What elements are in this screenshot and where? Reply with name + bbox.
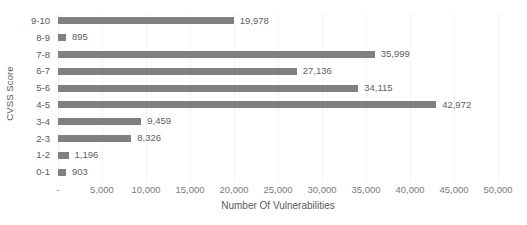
- x-axis-tick-45000: 45,000: [439, 183, 468, 197]
- bar: [58, 51, 375, 58]
- y-axis-tick-4-5: 4-5: [36, 97, 50, 113]
- y-axis-tick-1-2: 1-2: [36, 147, 50, 163]
- bar: [58, 85, 358, 92]
- bar-value-label: 19,978: [240, 13, 269, 29]
- bar-row: 35,999: [58, 47, 498, 63]
- x-axis-tick-15000: 15,000: [175, 183, 204, 197]
- bar-row: 34,115: [58, 80, 498, 96]
- y-axis-title: CVSS Score: [0, 0, 18, 186]
- bar-series: 19,97889535,99927,13634,11542,9729,4598,…: [58, 13, 498, 181]
- bar: [58, 68, 297, 75]
- bar: [58, 101, 436, 108]
- x-axis-tick-5000: 5,000: [90, 183, 114, 197]
- x-axis-tick-labels: -5,00010,00015,00020,00025,00030,00035,0…: [58, 183, 498, 197]
- x-axis-tick-30000: 30,000: [307, 183, 336, 197]
- x-axis-tick-40000: 40,000: [395, 183, 424, 197]
- bar-value-label: 35,999: [381, 46, 410, 62]
- bar-row: 903: [58, 164, 498, 180]
- bar-row: 19,978: [58, 13, 498, 29]
- vulnerabilities-by-cvss-score-chart: CVSS Score 9-108-97-86-75-64-53-42-31-20…: [0, 0, 527, 225]
- y-axis-tick-8-9: 8-9: [36, 30, 50, 46]
- bar-value-label: 9,459: [147, 113, 171, 129]
- x-axis-tick-35000: 35,000: [351, 183, 380, 197]
- bar-row: 1,196: [58, 147, 498, 163]
- bar-value-label: 8,326: [137, 130, 161, 146]
- bar: [58, 169, 66, 176]
- bar-row: 8,326: [58, 131, 498, 147]
- y-axis-tick-labels: 9-108-97-86-75-64-53-42-31-20-1: [18, 13, 54, 181]
- y-axis-tick-2-3: 2-3: [36, 131, 50, 147]
- x-axis-tick--: -: [56, 183, 59, 197]
- bar-value-label: 34,115: [364, 80, 392, 96]
- bar-value-label: 903: [72, 164, 88, 180]
- x-axis-title: Number Of Vulnerabilities: [58, 200, 498, 211]
- bar: [58, 17, 234, 24]
- bar-row: 27,136: [58, 63, 498, 79]
- x-axis-tick-10000: 10,000: [131, 183, 160, 197]
- bar: [58, 152, 69, 159]
- bar-row: 895: [58, 30, 498, 46]
- y-axis-title-label: CVSS Score: [4, 66, 15, 120]
- y-axis-tick-9-10: 9-10: [31, 13, 50, 29]
- bar: [58, 135, 131, 142]
- bar-value-label: 895: [72, 29, 88, 45]
- x-axis-tick-25000: 25,000: [263, 183, 292, 197]
- bar-value-label: 27,136: [303, 63, 332, 79]
- gridline: [498, 13, 499, 181]
- y-axis-tick-5-6: 5-6: [36, 80, 50, 96]
- bar: [58, 118, 141, 125]
- bar-value-label: 42,972: [442, 97, 471, 113]
- y-axis-tick-0-1: 0-1: [36, 164, 50, 180]
- plot-area: 19,97889535,99927,13634,11542,9729,4598,…: [58, 13, 498, 181]
- x-axis-tick-50000: 50,000: [483, 183, 512, 197]
- y-axis-tick-3-4: 3-4: [36, 114, 50, 130]
- bar-value-label: 1,196: [75, 147, 99, 163]
- y-axis-tick-6-7: 6-7: [36, 63, 50, 79]
- bar: [58, 34, 66, 41]
- x-axis-tick-20000: 20,000: [219, 183, 248, 197]
- bar-row: 42,972: [58, 97, 498, 113]
- y-axis-tick-7-8: 7-8: [36, 47, 50, 63]
- bar-row: 9,459: [58, 114, 498, 130]
